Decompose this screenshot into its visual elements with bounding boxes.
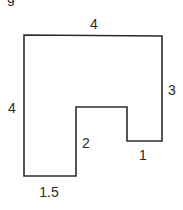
dimension-label-right: 3: [168, 83, 176, 97]
dimension-label-left: 4: [8, 101, 16, 115]
dimension-label-bottom: 1.5: [39, 185, 58, 199]
dimension-label-top: 4: [90, 17, 98, 31]
dimension-label-step-bottom: 1: [139, 148, 147, 162]
dimension-label-notch-inner: 2: [82, 136, 90, 150]
